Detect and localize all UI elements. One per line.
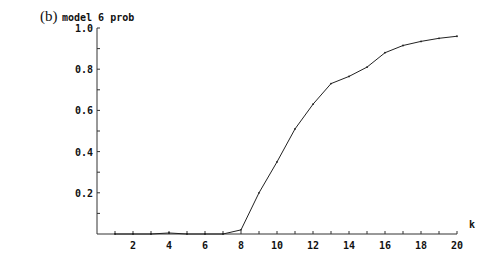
y-tick-label: 0.4 <box>75 147 93 158</box>
y-tick-label: 0.8 <box>75 64 93 75</box>
data-point <box>186 233 188 235</box>
data-point <box>204 233 206 235</box>
data-point <box>402 45 404 47</box>
x-tick-label: 6 <box>202 240 208 251</box>
data-point <box>456 35 458 37</box>
y-tick-label: 0.6 <box>75 105 93 116</box>
data-point <box>132 233 134 235</box>
x-tick-label: 16 <box>379 240 391 251</box>
data-point <box>150 233 152 235</box>
data-point <box>330 83 332 85</box>
data-point <box>420 40 422 42</box>
y-tick-label: 1.0 <box>75 23 93 34</box>
data-point <box>294 128 296 130</box>
data-point <box>438 37 440 39</box>
y-tick-label: 0.2 <box>75 188 93 199</box>
x-tick-label: 12 <box>307 240 319 251</box>
data-point <box>114 233 116 235</box>
line-chart: 0.20.40.60.81.02468101214161820 <box>0 0 498 262</box>
data-point <box>240 229 242 231</box>
data-point <box>312 103 314 105</box>
data-point <box>276 161 278 163</box>
x-tick-label: 8 <box>238 240 244 251</box>
x-tick-label: 2 <box>130 240 136 251</box>
x-tick-label: 14 <box>343 240 355 251</box>
x-tick-label: 20 <box>451 240 463 251</box>
data-point <box>384 52 386 54</box>
x-tick-label: 18 <box>415 240 427 251</box>
data-point <box>366 66 368 68</box>
data-point <box>348 76 350 78</box>
data-point <box>222 233 224 235</box>
x-tick-label: 10 <box>271 240 283 251</box>
x-tick-label: 4 <box>166 240 172 251</box>
data-point <box>168 232 170 234</box>
data-point <box>258 192 260 194</box>
data-line <box>115 36 457 234</box>
